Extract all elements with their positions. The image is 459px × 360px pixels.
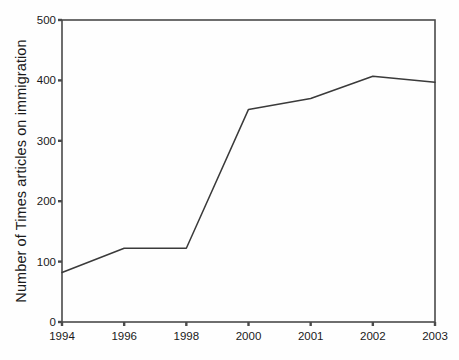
data-line-series-1	[62, 76, 435, 272]
plot-frame	[62, 20, 435, 322]
chart-figure: Number of Times articles on immigration …	[0, 0, 459, 360]
chart-canvas	[0, 0, 459, 360]
